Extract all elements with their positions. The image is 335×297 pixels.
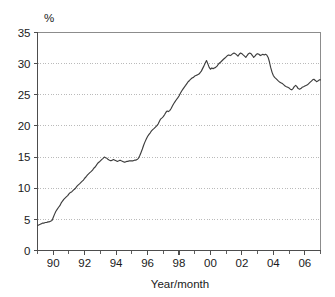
line-chart: 05101520253035 909294969800020406 % Year… (0, 0, 335, 297)
y-tick-label-group: 05101520253035 (18, 27, 31, 257)
y-tick-label-5: 5 (24, 214, 30, 226)
y-tick-label-20: 20 (18, 120, 31, 132)
data-series-group (38, 53, 321, 226)
x-tick-label-96: 96 (141, 257, 154, 269)
x-tick-label-92: 92 (78, 257, 91, 269)
data-line-share (38, 53, 321, 226)
x-tick-label-98: 98 (173, 257, 186, 269)
y-tick-label-15: 15 (18, 151, 31, 163)
x-tick-label-02: 02 (235, 257, 248, 269)
plot-frame (38, 33, 321, 251)
y-tick-label-25: 25 (18, 89, 31, 101)
x-tick-label-94: 94 (110, 257, 123, 269)
y-tick-label-35: 35 (18, 27, 31, 39)
y-tick-group (34, 33, 38, 251)
x-tick-group (38, 251, 321, 256)
chart-figure: 05101520253035 909294969800020406 % Year… (0, 0, 335, 297)
y-tick-label-10: 10 (18, 182, 31, 194)
x-tick-label-group: 909294969800020406 (47, 257, 311, 269)
y-tick-label-0: 0 (24, 245, 30, 257)
x-tick-label-06: 06 (298, 257, 311, 269)
y-tick-label-30: 30 (18, 58, 31, 70)
y-axis-unit-label: % (44, 12, 54, 24)
x-axis-title: Year/month (151, 278, 209, 290)
x-tick-label-04: 04 (267, 257, 280, 269)
x-tick-label-90: 90 (47, 257, 60, 269)
x-tick-label-00: 00 (204, 257, 217, 269)
gridlines-group (38, 33, 321, 220)
